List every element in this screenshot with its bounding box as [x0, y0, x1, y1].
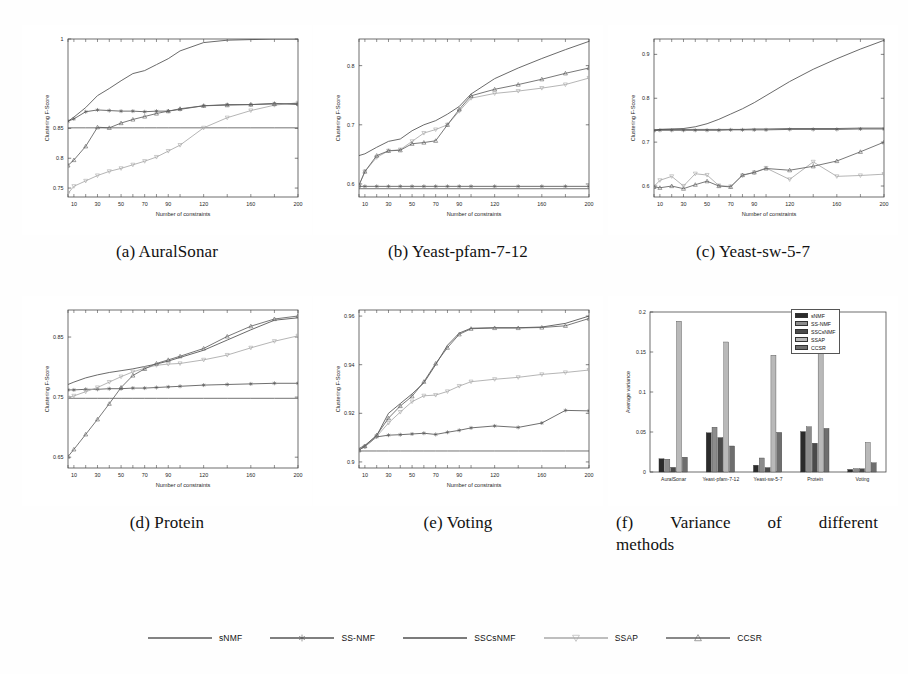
- y-tick-label: 0.8: [347, 63, 355, 69]
- bar-legend-label: sNMF: [811, 313, 825, 319]
- x-axis-label: Number of constraints: [156, 482, 211, 488]
- legend-line-sample: [542, 632, 610, 644]
- bar: [677, 321, 682, 472]
- bar: [801, 432, 806, 472]
- bar: [765, 468, 770, 472]
- y-tick-label: 0.85: [53, 125, 64, 131]
- plot-frame: [359, 310, 589, 468]
- x-tick-label: 10: [362, 201, 368, 207]
- y-axis-label: Clustering F-Score: [335, 366, 341, 413]
- bar-legend-swatch: [795, 329, 808, 335]
- x-tick-label: Protein: [807, 476, 823, 482]
- bar-legend-label: CCSR: [811, 345, 826, 351]
- y-axis-label: Clustering F-Score: [44, 95, 50, 142]
- panel-d: 0.650.750.851030507090120160200Number of…: [22, 296, 312, 534]
- bar: [777, 432, 782, 472]
- y-tick-label: 0.75: [53, 185, 64, 191]
- y-tick-label: 0.6: [642, 183, 650, 189]
- x-tick-label: 200: [294, 472, 303, 478]
- x-tick-label: 10: [71, 201, 77, 207]
- x-tick-label: Yeast-pfam-7-12: [702, 476, 739, 482]
- panel-e-plot: 0.90.920.940.961030507090120160200Number…: [313, 296, 603, 506]
- panel-a-plot: 0.750.80.8511030507090120160200Number of…: [22, 25, 312, 235]
- panel-b-plot: 0.60.70.81030507090120160200Number of co…: [313, 25, 603, 235]
- caption-word: (f): [616, 512, 633, 534]
- plot-frame: [359, 39, 589, 197]
- legend-label: SSAP: [615, 633, 638, 643]
- bar-legend-swatch: [795, 313, 808, 319]
- y-tick-label: 0.9: [347, 459, 355, 465]
- bar: [854, 469, 859, 472]
- bar: [871, 463, 876, 472]
- bar-legend-label: SSCsNMF: [811, 329, 836, 335]
- y-axis-label: Average variance: [625, 371, 631, 413]
- caption-word: Variance: [670, 512, 730, 534]
- bar: [671, 467, 676, 472]
- x-axis-label: Number of constraints: [447, 211, 502, 217]
- panel-d-caption: (d) Protein: [22, 512, 312, 534]
- x-tick-label: 160: [537, 201, 546, 207]
- bar-legend-swatch: [795, 321, 808, 327]
- y-tick-label: 0.96: [344, 313, 355, 319]
- panel-c-caption: (c) Yeast-sw-5-7: [608, 241, 898, 263]
- panel-f-plot: 00.050.10.150.2AuralSonarYeast-pfam-7-12…: [608, 296, 898, 506]
- x-tick-label: 120: [785, 201, 794, 207]
- x-tick-label: 10: [657, 201, 663, 207]
- x-tick-label: 120: [490, 472, 499, 478]
- bar: [865, 442, 870, 472]
- panel-a: 0.750.80.8511030507090120160200Number of…: [22, 25, 312, 263]
- bar-legend-item: sNMF: [795, 312, 836, 319]
- legend-line-sample: [664, 632, 732, 644]
- legend-line-sample: [401, 632, 469, 644]
- y-tick-label: 0.85: [53, 334, 64, 340]
- x-tick-label: 120: [490, 201, 499, 207]
- x-tick-label: 50: [409, 472, 415, 478]
- y-tick-label: 0.6: [347, 181, 355, 187]
- panel-f-caption: (f)Varianceofdifferent methods: [608, 512, 898, 556]
- plot-frame: [650, 312, 886, 472]
- x-tick-label: 70: [728, 201, 734, 207]
- y-axis-label: Clustering F-Score: [335, 95, 341, 142]
- x-tick-label: 120: [199, 201, 208, 207]
- caption-word: different: [819, 512, 878, 534]
- panel-e-caption: (e) Voting: [313, 512, 603, 534]
- line-chart-c: 0.60.70.80.91030507090120160200Number of…: [608, 25, 898, 235]
- line-chart-b: 0.60.70.81030507090120160200Number of co…: [313, 25, 603, 235]
- panel-c: 0.60.70.80.91030507090120160200Number of…: [608, 25, 898, 263]
- x-tick-label: 160: [246, 201, 255, 207]
- bar: [659, 459, 664, 472]
- x-axis-label: Number of constraints: [447, 482, 502, 488]
- legend-line-sample: [146, 632, 214, 644]
- legend-label: CCSR: [737, 633, 762, 643]
- bar-chart-f: 00.050.10.150.2AuralSonarYeast-pfam-7-12…: [608, 296, 898, 506]
- panel-e: 0.90.920.940.961030507090120160200Number…: [313, 296, 603, 534]
- bar-legend-swatch: [795, 345, 808, 351]
- bar: [848, 469, 853, 472]
- y-tick-label: 0: [643, 469, 646, 475]
- legend-item-sscsnmf: SSCsNMF: [401, 632, 516, 644]
- legend-label: sNMF: [219, 633, 242, 643]
- x-tick-label: 200: [585, 201, 594, 207]
- x-tick-label: 70: [142, 201, 148, 207]
- x-tick-label: 90: [751, 201, 757, 207]
- x-tick-label: 120: [199, 472, 208, 478]
- bar: [730, 446, 735, 472]
- y-tick-label: 0.94: [344, 362, 355, 368]
- panel-a-caption: (a) AuralSonar: [22, 241, 312, 263]
- legend-label: SSCsNMF: [474, 633, 516, 643]
- bar-legend-item: SSAP: [795, 336, 836, 343]
- y-tick-label: 0.8: [642, 95, 650, 101]
- x-tick-label: 70: [433, 201, 439, 207]
- panel-b-caption: (b) Yeast-pfam-7-12: [313, 241, 603, 263]
- panel-b: 0.60.70.81030507090120160200Number of co…: [313, 25, 603, 263]
- x-tick-label: 50: [409, 201, 415, 207]
- x-tick-label: Yeast-sw-5-7: [754, 476, 783, 482]
- bar-legend-label: SSAP: [811, 337, 825, 343]
- x-axis-label: Number of constraints: [156, 211, 211, 217]
- x-tick-label: 90: [456, 201, 462, 207]
- x-tick-label: 70: [142, 472, 148, 478]
- bar: [718, 438, 723, 472]
- x-tick-label: 200: [294, 201, 303, 207]
- line-chart-d: 0.650.750.851030507090120160200Number of…: [22, 296, 312, 506]
- y-tick-label: 0.75: [53, 394, 64, 400]
